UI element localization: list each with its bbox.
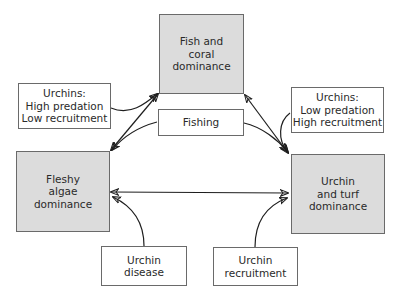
driver-label-line: Low recruitment (22, 112, 108, 125)
state-label-line: dominance (172, 60, 230, 73)
driver-urchin-recruitment: Urchin recruitment (213, 247, 298, 286)
state-urchin-turf-dominance: Urchin and turf dominance (291, 154, 385, 234)
arrow-disease-to-algae (113, 197, 144, 246)
state-label-line: coral (189, 48, 215, 61)
arrow-algae-urchin-turf (111, 192, 288, 193)
driver-label-line: disease (124, 266, 164, 279)
arrow-high-predation-to-fish-coral (111, 94, 157, 111)
driver-urchin-disease: Urchin disease (101, 246, 187, 286)
driver-fishing: Fishing (158, 109, 244, 136)
driver-label-line: recruitment (225, 267, 287, 280)
driver-label-line: Urchins: (316, 91, 359, 104)
state-label-line: dominance (309, 200, 367, 213)
driver-label-line: Urchin (239, 254, 273, 267)
driver-label-line: High recruitment (293, 116, 382, 129)
state-label-line: Urchin (321, 175, 355, 188)
state-fish-coral-dominance: Fish and coral dominance (159, 14, 244, 94)
driver-urchins-high-predation: Urchins: High predation Low recruitment (18, 83, 111, 129)
state-label-line: dominance (34, 198, 92, 211)
driver-label-line: Urchin (127, 254, 161, 267)
driver-label-line: Low predation (300, 104, 374, 117)
driver-urchins-low-predation: Urchins: Low predation High recruitment (291, 87, 384, 133)
state-label-line: and turf (317, 188, 359, 201)
state-label-line: algae (49, 185, 78, 198)
driver-label-line: Fishing (183, 116, 220, 129)
arrow-recruitment-to-urchin-turf (255, 198, 287, 247)
state-fleshy-algae-dominance: Fleshy algae dominance (16, 151, 110, 232)
arrow-fishing-to-algae (112, 122, 157, 150)
state-label-line: Fleshy (46, 173, 80, 186)
driver-label-line: High predation (26, 100, 104, 113)
arrow-algae-fish-coral (111, 94, 158, 150)
driver-label-line: Urchins: (43, 87, 86, 100)
state-label-line: Fish and (180, 35, 223, 48)
